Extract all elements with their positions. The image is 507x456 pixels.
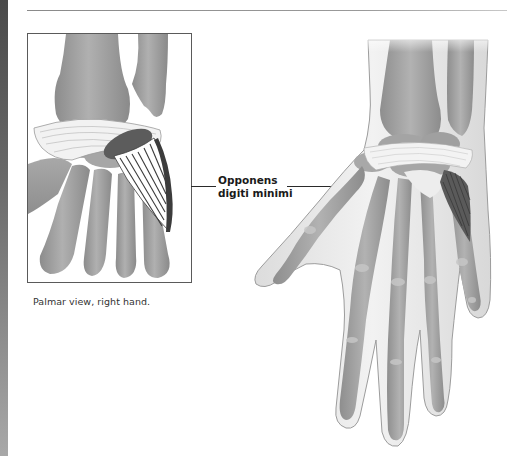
hand-skeleton-illustration (0, 0, 507, 456)
